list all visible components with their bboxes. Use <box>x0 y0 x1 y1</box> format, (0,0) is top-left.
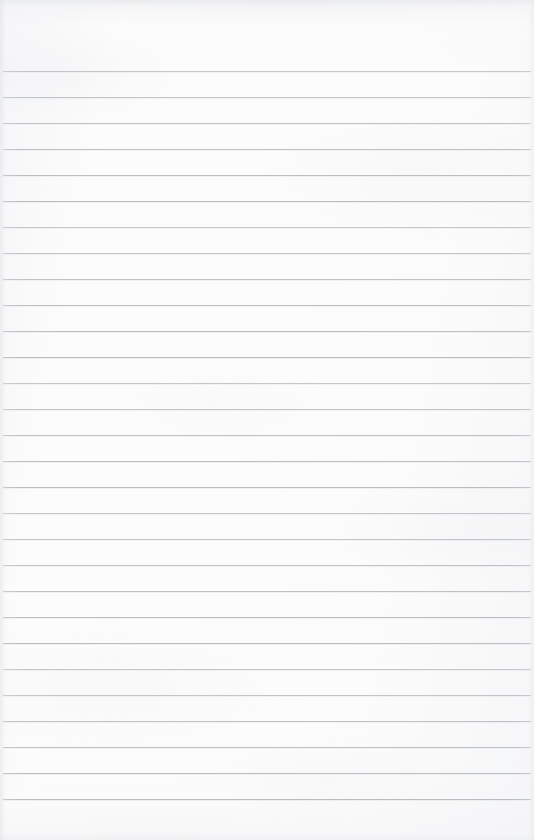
rule-line <box>3 643 531 644</box>
rule-line <box>3 383 531 384</box>
rule-line <box>3 357 531 358</box>
rule-line <box>3 331 531 332</box>
rule-line <box>3 175 531 176</box>
rule-line <box>3 721 531 722</box>
rule-line <box>3 669 531 670</box>
rule-line <box>3 201 531 202</box>
rule-line <box>3 461 531 462</box>
rule-line <box>3 695 531 696</box>
rule-line <box>3 149 531 150</box>
rule-line <box>3 565 531 566</box>
rule-line <box>3 227 531 228</box>
rule-line <box>3 253 531 254</box>
rule-line <box>3 539 531 540</box>
rule-lines-group <box>0 0 534 840</box>
rule-line <box>3 123 531 124</box>
rule-line <box>3 435 531 436</box>
rule-line <box>3 513 531 514</box>
rule-line <box>3 409 531 410</box>
paper-texture-overlay <box>0 0 534 840</box>
rule-line <box>3 773 531 774</box>
rule-line <box>3 591 531 592</box>
rule-line <box>3 305 531 306</box>
rule-line <box>3 71 531 72</box>
rule-line <box>3 487 531 488</box>
rule-line <box>3 799 531 800</box>
rule-line <box>3 747 531 748</box>
rule-line <box>3 617 531 618</box>
rule-line <box>3 97 531 98</box>
scanned-paper-page <box>0 0 534 840</box>
paper-edge-shading <box>0 0 534 840</box>
rule-line <box>3 279 531 280</box>
